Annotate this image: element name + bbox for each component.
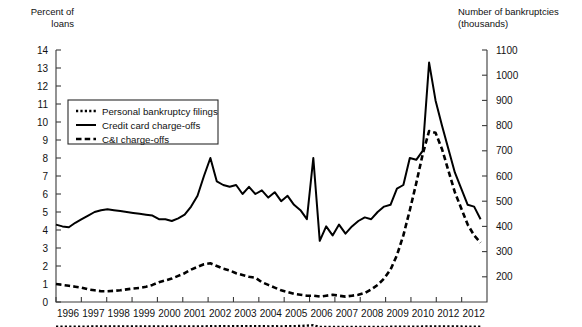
right-axis-tick-label: 900 (496, 95, 513, 106)
plot-frame (56, 50, 487, 302)
series-line-solid (56, 63, 481, 241)
legend-label: C&I charge-offs (102, 134, 169, 145)
x-axis-tick-label: 2008 (361, 308, 384, 319)
left-axis-tick-label: 14 (37, 45, 49, 56)
x-axis-tick-label: 2012 (437, 308, 460, 319)
right-axis-tick-label: 1000 (496, 70, 519, 81)
left-axis-tick-label: 0 (42, 297, 48, 308)
left-axis-tick-label: 13 (37, 63, 49, 74)
chart-figure: Percent of loans Number of bankruptcies … (0, 0, 582, 327)
legend-label: Personal bankruptcy filings (102, 106, 218, 117)
left-axis-tick-label: 5 (42, 207, 48, 218)
right-axis-tick-label: 600 (496, 171, 513, 182)
left-axis-tick-label: 3 (42, 243, 48, 254)
left-axis-tick-label: 10 (37, 117, 49, 128)
chart-plot-area: 0123456789101112131420030040050060070080… (0, 0, 582, 327)
left-axis-tick-label: 7 (42, 171, 48, 182)
right-axis-tick-label: 200 (496, 271, 513, 282)
x-axis-tick-label: 2006 (310, 308, 333, 319)
x-axis-tick-label: 1997 (82, 308, 105, 319)
left-axis-tick-label: 6 (42, 189, 48, 200)
x-axis-tick-label: 2000 (158, 308, 181, 319)
x-axis-tick-label: 1996 (57, 308, 80, 319)
left-axis-tick-label: 8 (42, 153, 48, 164)
left-axis-tick-label: 2 (42, 261, 48, 272)
x-axis-tick-label: 2007 (336, 308, 359, 319)
x-axis-tick-label: 2002 (209, 308, 232, 319)
x-axis-tick-label: 2005 (285, 308, 308, 319)
x-axis-tick-label: 2001 (184, 308, 207, 319)
right-axis-tick-label: 500 (496, 196, 513, 207)
right-axis-tick-label: 1100 (496, 45, 518, 56)
x-axis-tick-label: 2012 (463, 308, 486, 319)
right-axis-tick-label: 800 (496, 120, 513, 131)
legend-label: Credit card charge-offs (102, 120, 201, 131)
left-axis-tick-label: 11 (38, 99, 49, 110)
right-axis-tick-label: 400 (496, 221, 513, 232)
x-axis-tick-label: 2010 (412, 308, 435, 319)
series-line-dashed (56, 131, 481, 297)
x-axis-tick-label: 2003 (234, 308, 257, 319)
left-axis-tick-label: 4 (42, 225, 48, 236)
x-axis-tick-label: 2009 (386, 308, 409, 319)
right-axis-tick-label: 700 (496, 145, 513, 156)
x-axis-tick-label: 2004 (260, 308, 283, 319)
right-axis-tick-label: 300 (496, 246, 513, 257)
x-axis-tick-label: 1998 (108, 308, 131, 319)
left-axis-tick-label: 12 (37, 81, 49, 92)
x-axis-tick-label: 1999 (133, 308, 156, 319)
left-axis-tick-label: 1 (42, 279, 48, 290)
left-axis-tick-label: 9 (42, 135, 48, 146)
